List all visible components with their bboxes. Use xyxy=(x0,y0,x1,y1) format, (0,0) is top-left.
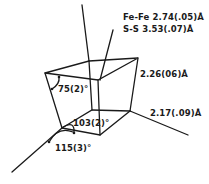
angle-103-label: 103(2)° xyxy=(73,118,109,128)
fe-fe-distance-label: Fe-Fe 2.74(.05)Å xyxy=(123,12,204,22)
diagram: Fe-Fe 2.74(.05)Å S-S 3.53(.07)Å 2.26(06)… xyxy=(0,0,209,184)
angle-115-label: 115(3)° xyxy=(55,143,91,153)
angle-75-label: 75(2)° xyxy=(58,84,88,94)
edge-right xyxy=(130,58,138,111)
lower-bond-length-label: 2.17(.09)Å xyxy=(150,108,201,118)
upper-bond-length-label: 2.26(06)Å xyxy=(140,69,188,79)
angle-arc-115 xyxy=(49,130,73,142)
s-s-distance-label: S-S 3.53(.07)Å xyxy=(123,24,194,34)
edge-left xyxy=(45,73,62,128)
bond-top-left xyxy=(82,5,89,61)
edge-back xyxy=(89,61,92,110)
